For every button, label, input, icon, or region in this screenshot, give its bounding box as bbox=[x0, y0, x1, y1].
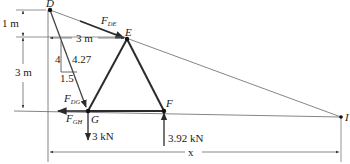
line-G-I bbox=[14, 111, 341, 117]
joint-I bbox=[339, 115, 343, 119]
label-slope-hyp: 4.27 bbox=[72, 53, 92, 65]
label-F: F bbox=[165, 97, 173, 109]
label-dim-1m: 1 m bbox=[2, 17, 19, 29]
label-slope-rise: 4 bbox=[55, 53, 61, 65]
joint-F bbox=[162, 109, 166, 113]
label-FDE: FDE bbox=[100, 14, 116, 27]
label-E: E bbox=[124, 26, 132, 38]
label-dim-x: x bbox=[188, 146, 194, 158]
label-reaction-F: 3.92 kN bbox=[168, 132, 204, 144]
member-EG bbox=[88, 39, 127, 111]
label-I: I bbox=[344, 111, 350, 123]
label-dim-3m-vertical: 3 m bbox=[15, 66, 32, 78]
label-G: G bbox=[91, 113, 99, 125]
label-dim-3m-horizontal: 3 m bbox=[76, 32, 93, 44]
label-FGH: FGH bbox=[65, 112, 82, 125]
label-FDG: FDG bbox=[63, 92, 80, 105]
label-load-G: 3 kN bbox=[92, 130, 114, 142]
label-slope-run: 1.5 bbox=[60, 72, 74, 84]
label-D: D bbox=[45, 0, 54, 9]
truss-free-body-diagram: D E G F I FDE FDG FGH 3 kN 3.92 kN 1 m 3… bbox=[0, 0, 350, 164]
joint-G bbox=[86, 109, 90, 113]
